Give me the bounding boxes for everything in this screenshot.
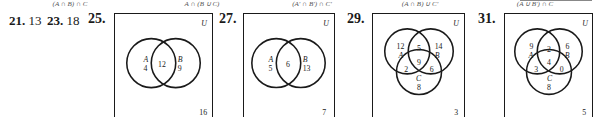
set-b-label: B — [178, 55, 183, 64]
b-only-value: 14 — [435, 42, 443, 51]
caption-2: A ∩ (B ∪ C) — [185, 0, 220, 8]
caption-4: (A ∩ B) ∪ C′ — [402, 0, 438, 8]
outside-value: 16 — [199, 108, 207, 117]
a-only-value: 12 — [396, 42, 404, 51]
set-a-label: A — [527, 51, 533, 60]
problem-number-31: 31. — [478, 11, 496, 27]
abc-value: 4 — [547, 58, 551, 67]
venn-svg: U 9 A 2 6 B 4 3 0 C 8 5 — [505, 14, 592, 117]
ac-only-value: 2 — [404, 65, 408, 74]
outside-value: 3 — [454, 108, 458, 117]
a-only-value: 5 — [268, 64, 272, 73]
venn-svg: U A 4 12 B 9 16 — [115, 14, 212, 117]
divider-line — [520, 0, 592, 1]
universe-label: U — [582, 19, 589, 28]
caption-3: (A′ ∩ B′) ∩ C′ — [292, 0, 332, 8]
b-only-value: 13 — [303, 64, 311, 73]
universe-label: U — [453, 19, 460, 28]
problem-number-27: 27. — [219, 11, 237, 27]
set-a-label: A — [267, 55, 273, 64]
outside-value: 5 — [582, 108, 586, 117]
caption-1: (A ∩ B) ∩ C — [53, 0, 88, 8]
set-b-label: B — [435, 51, 440, 60]
answer-value: 13 — [29, 13, 42, 28]
set-a-label: A — [142, 55, 148, 64]
set-b-label: B — [303, 55, 308, 64]
abc-value: 9 — [417, 58, 421, 67]
ac-only-value: 3 — [534, 65, 538, 74]
bc-only-value: 0 — [560, 65, 564, 74]
b-only-value: 6 — [566, 42, 570, 51]
caption-5: (A ∪ B′) ∩ C — [517, 0, 553, 8]
set-c-label: C — [416, 74, 422, 83]
answer-number: 21. — [9, 13, 25, 28]
b-only-value: 9 — [178, 64, 182, 73]
venn-diagram-29: U 12 A 5 14 B 9 2 6 C 8 3 — [372, 13, 465, 117]
ab-value: 6 — [286, 60, 290, 69]
ab-only-value: 5 — [417, 44, 421, 53]
problem-number-25: 25. — [88, 11, 106, 27]
a-only-value: 4 — [143, 64, 147, 73]
answer-number: 23. — [47, 13, 63, 28]
universe-label: U — [201, 19, 208, 28]
universe-label: U — [323, 19, 330, 28]
answer-21: 21. 13 — [9, 13, 42, 29]
ab-only-value: 2 — [547, 45, 551, 54]
venn-diagram-31: U 9 A 2 6 B 4 3 0 C 8 5 — [504, 13, 593, 117]
set-b-label: B — [565, 51, 570, 60]
c-only-value: 8 — [417, 84, 421, 93]
set-a-label: A — [397, 51, 403, 60]
set-c-label: C — [547, 74, 553, 83]
bc-only-value: 6 — [430, 65, 434, 74]
ab-value: 12 — [158, 60, 166, 69]
venn-diagram-27: U A 5 6 B 13 7 — [243, 13, 335, 117]
venn-svg: U 12 A 5 14 B 9 2 6 C 8 3 — [373, 14, 464, 117]
a-only-value: 9 — [529, 42, 533, 51]
c-only-value: 8 — [547, 83, 551, 92]
venn-diagram-25: U A 4 12 B 9 16 — [114, 13, 213, 117]
answer-23: 23. 18 — [47, 13, 80, 29]
outside-value: 7 — [322, 108, 326, 117]
problem-number-29: 29. — [347, 11, 365, 27]
answer-value: 18 — [67, 13, 80, 28]
venn-svg: U A 5 6 B 13 7 — [244, 14, 334, 117]
